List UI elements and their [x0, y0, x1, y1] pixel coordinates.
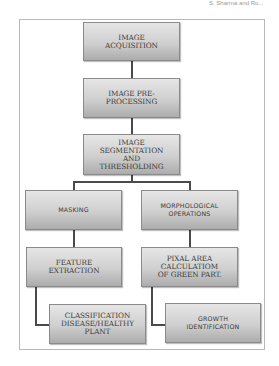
connector-preprocessing-segmentation: [131, 118, 133, 134]
connector-masking-feature: [73, 230, 75, 247]
connector-branch-masking: [73, 181, 75, 190]
connector-branch-morphological: [189, 181, 191, 190]
node-pixal-area: PIXAL AREA CALCULATIOM OF GREEN PART.: [141, 247, 238, 287]
node-classification: CLASSIFICATION DISEASE/HEALTHY PLANT: [49, 304, 146, 344]
connector-morphological-pixal: [189, 230, 191, 247]
page-header-text: S. Sharma and Ro...: [209, 0, 279, 6]
node-label: IMAGE SEGMENTATION AND THRESHOLDING: [100, 139, 164, 171]
node-label: PIXAL AREA CALCULATIOM OF GREEN PART.: [158, 255, 222, 279]
node-masking: MASKING: [25, 190, 122, 230]
connector-pixal-growth-vertical: [151, 287, 153, 326]
connector-feature-classification-vertical: [35, 287, 37, 326]
node-feature-extraction: FEATURE EXTRACTION: [26, 247, 122, 287]
connector-acquisition-preprocessing: [131, 61, 133, 78]
node-label: CLASSIFICATION DISEASE/HEALTHY PLANT: [61, 312, 134, 336]
node-image-segmentation: IMAGE SEGMENTATION AND THRESHOLDING: [83, 134, 180, 175]
node-growth-identification: GROWTH IDENTIFICATION: [165, 303, 261, 343]
node-label: GROWTH IDENTIFICATION: [187, 315, 240, 331]
node-morphological-operations: MORPHOLOGICAL OPERATIONS: [141, 190, 238, 230]
node-label: IMAGE PRE- PROCESSING: [106, 90, 157, 106]
node-image-acquisition: IMAGE ACQUISITION: [83, 22, 180, 61]
node-label: FEATURE EXTRACTION: [49, 259, 100, 275]
node-label: MORPHOLOGICAL OPERATIONS: [160, 202, 218, 218]
diagram-frame: [19, 19, 265, 350]
connector-branch-horizontal: [73, 181, 191, 183]
node-image-preprocessing: IMAGE PRE- PROCESSING: [83, 78, 180, 118]
node-label: MASKING: [58, 206, 89, 214]
connector-feature-classification-horizontal: [35, 324, 50, 326]
node-label: IMAGE ACQUISITION: [105, 34, 158, 50]
connector-pixal-growth-horizontal: [151, 324, 166, 326]
